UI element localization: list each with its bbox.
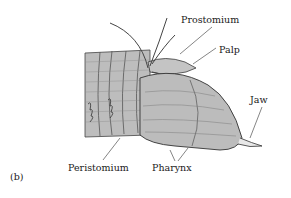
label-pharynx: Pharynx (152, 163, 192, 173)
label-jaw: Jaw (250, 95, 268, 105)
pharynx (140, 73, 262, 150)
label-prostomium: Prostomium (181, 15, 239, 25)
label-palp: Palp (219, 45, 240, 55)
diagram-canvas: Prostomium Palp Jaw Peristomium Pharynx … (0, 0, 291, 198)
worm-illustration (0, 0, 291, 198)
panel-label: (b) (10, 172, 24, 182)
label-peristomium: Peristomium (68, 163, 129, 173)
